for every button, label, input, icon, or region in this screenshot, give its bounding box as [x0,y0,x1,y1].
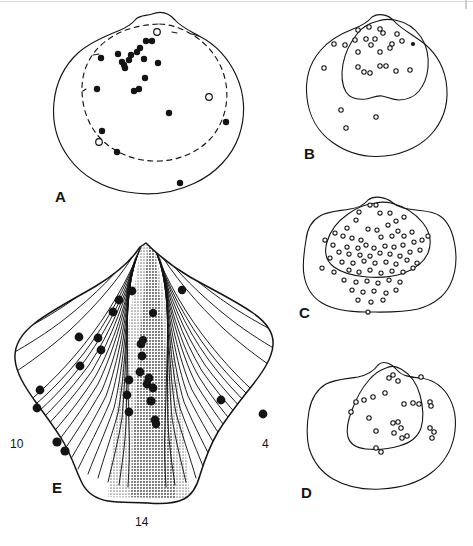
panel-label-a: A [55,188,66,205]
panel-a-hinge-mark-left2 [93,54,99,55]
panel-d [300,360,468,500]
panel-label-d: D [301,484,312,501]
panel-a-drawing [40,10,265,200]
panel-label-c: C [299,304,310,321]
rib-label-4: 4 [262,437,269,451]
panel-c-drawing [298,192,468,324]
panel-a-open-circles [96,29,213,146]
panel-b [300,12,465,160]
panel-c [298,192,468,324]
scan-artifact-line [0,1,473,2]
panel-label-e: E [52,479,62,496]
panel-b-outline [307,15,447,157]
panel-c-open-circles [320,203,430,314]
panel-a-filled-dots [94,38,229,186]
panel-a-hinge-mark-left [83,89,86,91]
panel-e [8,235,288,520]
panel-d-drawing [300,360,468,500]
scan-artifact-mark [465,0,467,9]
panel-a-dashed-inner-arc [82,24,227,161]
panel-label-b: B [304,145,315,162]
rib-label-14: 14 [135,515,148,529]
panel-a-hinge-mark-right2 [172,32,177,33]
figure-canvas: A [0,0,473,546]
panel-b-solid-node [411,42,415,46]
panel-a [40,10,265,200]
panel-d-outline [307,363,455,490]
panel-b-drawing [300,12,465,160]
panel-e-drawing [8,235,288,520]
panel-b-open-circles [322,25,412,130]
rib-label-10: 10 [10,437,23,451]
panel-d-inner-field [347,367,423,450]
